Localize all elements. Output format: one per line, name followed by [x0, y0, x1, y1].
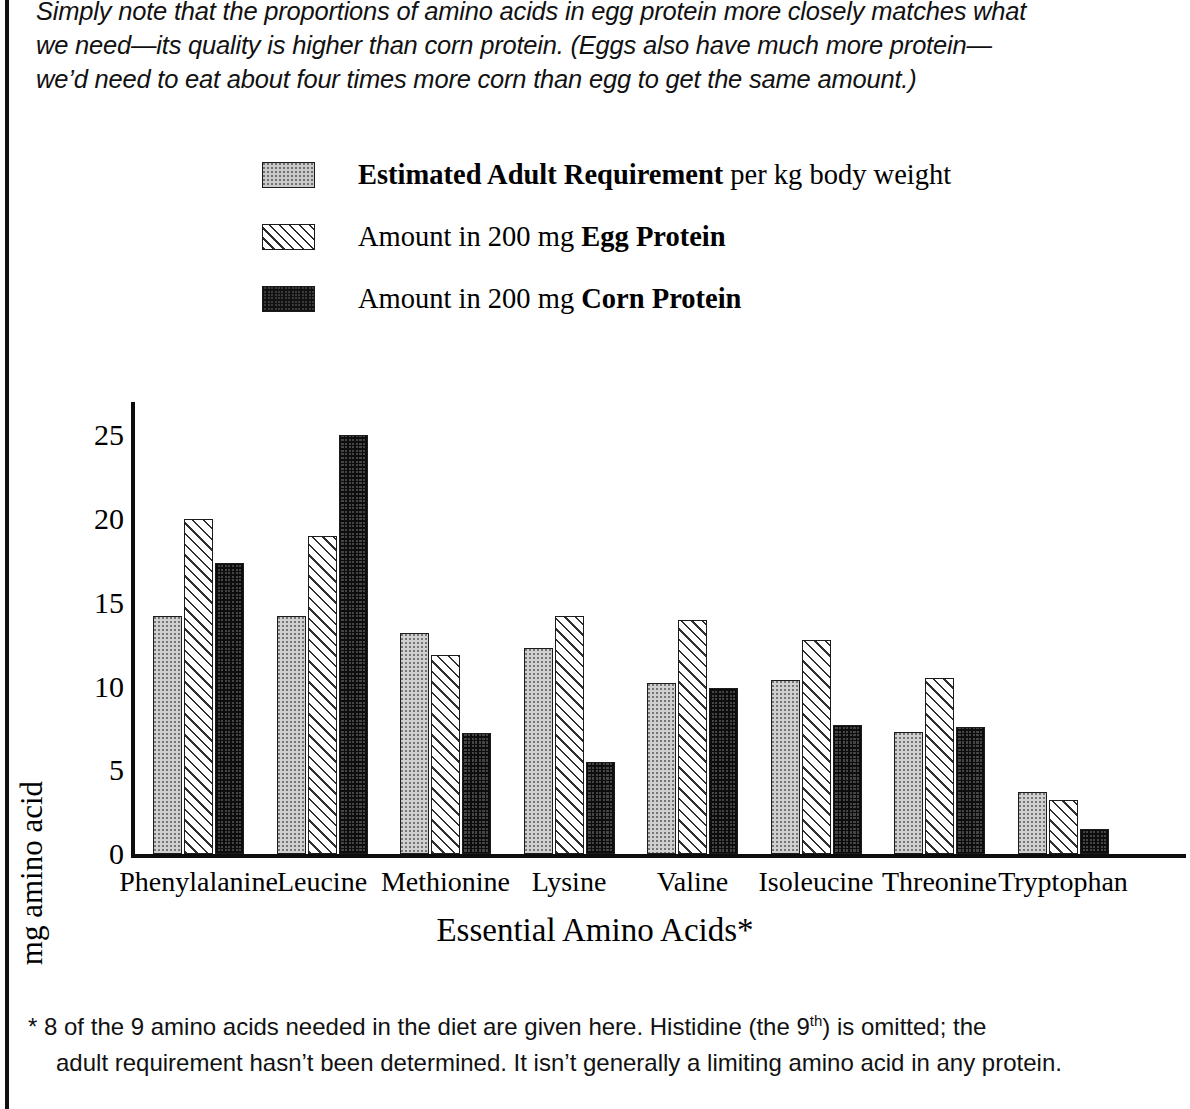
bar-chart: mg amino acid 0510152025 PhenylalanineLe… [0, 395, 1190, 955]
footnote: * 8 of the 9 amino acids needed in the d… [28, 1003, 1178, 1081]
legend-bold-egg: Egg Protein [581, 221, 725, 252]
footnote-line-1: * 8 of the 9 amino acids needed in the d… [28, 1003, 1178, 1045]
bar [802, 640, 831, 854]
bar-group [277, 402, 368, 854]
bar [1018, 792, 1047, 854]
bar [833, 725, 862, 854]
y-tick-label: 5 [72, 755, 124, 785]
bar-group [1018, 402, 1109, 854]
footnote-line-2: adult requirement hasn’t been determined… [28, 1045, 1178, 1081]
legend-item-corn: Amount in 200 mg Corn Protein [262, 268, 1062, 330]
legend-lead-egg: Amount in 200 mg [358, 221, 581, 252]
intro-paragraph: Simply note that the proportions of amin… [36, 0, 1176, 96]
bar [339, 435, 368, 854]
bar [462, 733, 491, 854]
y-tick-label: 15 [72, 588, 124, 618]
footnote-line-1a: * 8 of the 9 amino acids needed in the d… [28, 1013, 810, 1040]
x-tick-label: Leucine [277, 865, 367, 899]
bar-group [153, 402, 244, 854]
bar [153, 616, 182, 854]
bar [647, 683, 676, 854]
hatch-swatch-icon [262, 224, 315, 250]
x-tick-label: Threonine [882, 865, 997, 899]
x-tick-label: Tryptophan [998, 865, 1128, 899]
bar [277, 616, 306, 854]
x-tick-label: Isoleucine [758, 865, 873, 899]
intro-line-3: we’d need to eat about four times more c… [36, 62, 1176, 96]
legend-rest-requirement: per kg body weight [723, 159, 951, 190]
bar [215, 563, 244, 854]
y-tick-label: 25 [72, 420, 124, 450]
x-tick-label: Phenylalanine [119, 865, 278, 899]
bar [184, 519, 213, 854]
footnote-ordinal-suffix: th [810, 1012, 823, 1029]
bar [1049, 800, 1078, 854]
y-axis-ticks: 0510152025 [72, 395, 124, 865]
bar [771, 680, 800, 854]
bar [431, 655, 460, 854]
bar [555, 616, 584, 854]
bar-group [524, 402, 615, 854]
bar [956, 727, 985, 854]
x-tick-label: Methionine [381, 865, 510, 899]
check-swatch-icon [262, 286, 315, 312]
legend-label-requirement: Estimated Adult Requirement per kg body … [358, 160, 951, 190]
legend-lead-corn: Amount in 200 mg [358, 283, 581, 314]
x-axis-line [131, 854, 1186, 858]
legend-item-egg: Amount in 200 mg Egg Protein [262, 206, 1062, 268]
legend-bold-requirement: Estimated Adult Requirement [358, 159, 723, 190]
legend-label-corn: Amount in 200 mg Corn Protein [358, 284, 741, 314]
x-tick-label: Lysine [532, 865, 607, 899]
legend-label-egg: Amount in 200 mg Egg Protein [358, 222, 726, 252]
bar [308, 536, 337, 854]
bar [1080, 829, 1109, 854]
bar [400, 633, 429, 854]
bar-group [647, 402, 738, 854]
chart-legend: Estimated Adult Requirement per kg body … [262, 144, 1062, 330]
intro-line-1: Simply note that the proportions of amin… [36, 0, 1176, 28]
x-axis-tick-labels: PhenylalanineLeucineMethionineLysineVali… [0, 865, 1190, 905]
y-tick-label: 20 [72, 504, 124, 534]
bar-group [771, 402, 862, 854]
legend-item-requirement: Estimated Adult Requirement per kg body … [262, 144, 1062, 206]
intro-line-2: we need—its quality is higher than corn … [36, 28, 1176, 62]
bar [586, 762, 615, 854]
bar-group [400, 402, 491, 854]
x-tick-label: Valine [657, 865, 729, 899]
bar [678, 620, 707, 854]
x-axis-title: Essential Amino Acids* [0, 910, 1190, 950]
footnote-line-1b: ) is omitted; the [822, 1013, 986, 1040]
bar [709, 688, 738, 854]
bar-group [894, 402, 985, 854]
bar [894, 732, 923, 854]
bar [925, 678, 954, 854]
y-tick-label: 10 [72, 672, 124, 702]
legend-bold-corn: Corn Protein [581, 283, 741, 314]
dots-swatch-icon [262, 162, 315, 188]
plot-area [135, 402, 1185, 854]
bar [524, 648, 553, 854]
